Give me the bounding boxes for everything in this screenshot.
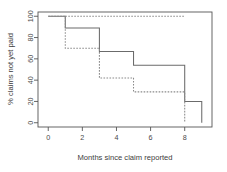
y-axis-title: % claims not yet paid: [6, 33, 15, 105]
y-tick-label: 40: [27, 76, 36, 84]
x-tick-label: 0: [46, 133, 50, 142]
x-tick-label: 4: [114, 133, 118, 142]
x-axis-title: Months since claim reported: [78, 153, 173, 162]
plot-box: [38, 12, 212, 127]
step-plot-svg: 020406080100 02468 Months since claim re…: [0, 0, 227, 172]
y-tick-label: 100: [26, 10, 35, 22]
y-axis-ticks: 020406080100: [26, 10, 38, 124]
x-tick-label: 6: [149, 133, 153, 142]
series-line-dashed: [48, 16, 184, 122]
y-tick-label: 20: [27, 97, 36, 105]
series-line-solid: [48, 16, 202, 122]
chart-figure: 020406080100 02468 Months since claim re…: [0, 0, 227, 172]
x-tick-label: 8: [183, 133, 187, 142]
y-tick-label: 60: [27, 55, 36, 63]
y-tick-label: 0: [27, 121, 36, 125]
y-tick-label: 80: [27, 34, 36, 42]
x-axis-ticks: 02468: [46, 127, 186, 142]
x-tick-label: 2: [80, 133, 84, 142]
series-group: [48, 16, 202, 122]
